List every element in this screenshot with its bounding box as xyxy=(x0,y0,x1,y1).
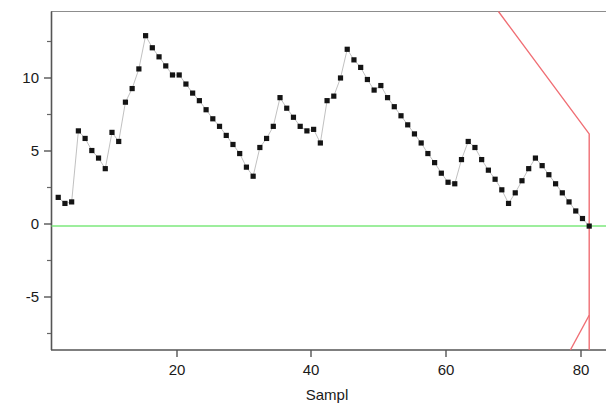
data-point-marker xyxy=(392,104,397,109)
data-point-marker xyxy=(304,128,309,133)
x-tick-label-40: 40 xyxy=(303,361,320,378)
data-point-marker xyxy=(419,140,424,145)
data-point-marker xyxy=(170,72,175,77)
data-point-marker xyxy=(398,113,403,118)
data-point-marker xyxy=(432,160,437,165)
data-point-marker xyxy=(385,95,390,100)
data-point-marker xyxy=(499,187,504,192)
data-point-marker xyxy=(412,131,417,136)
data-point-marker xyxy=(546,172,551,177)
data-point-marker xyxy=(298,124,303,129)
y-tick-label-10: 10 xyxy=(22,69,39,86)
data-point-marker xyxy=(257,145,262,150)
data-point-marker xyxy=(587,223,592,228)
data-point-marker xyxy=(271,124,276,129)
data-point-marker xyxy=(277,95,282,100)
data-series-layer xyxy=(56,33,592,229)
control-chart: 10 5 0 -5 20 40 60 80 Sampl xyxy=(0,0,606,404)
data-point-marker xyxy=(83,136,88,141)
data-point-marker xyxy=(96,155,101,160)
x-tick-label-60: 60 xyxy=(438,361,455,378)
data-point-marker xyxy=(345,47,350,52)
data-point-marker xyxy=(224,133,229,138)
data-point-marker xyxy=(109,130,114,135)
data-point-marker xyxy=(163,63,168,68)
data-point-marker xyxy=(378,83,383,88)
y-tick-label-minus5: -5 xyxy=(26,288,39,305)
data-point-marker xyxy=(284,106,289,111)
series-connector-line xyxy=(58,36,589,226)
data-point-marker xyxy=(372,87,377,92)
data-point-marker xyxy=(519,178,524,183)
data-point-marker xyxy=(230,142,235,147)
data-point-marker xyxy=(150,45,155,50)
series-observation xyxy=(56,33,592,229)
x-tick-label-80: 80 xyxy=(573,361,590,378)
data-point-marker xyxy=(533,155,538,160)
data-point-marker xyxy=(237,151,242,156)
data-point-marker xyxy=(553,181,558,186)
data-point-marker xyxy=(560,190,565,195)
data-point-marker xyxy=(526,166,531,171)
data-point-marker xyxy=(291,115,296,120)
data-point-marker xyxy=(143,33,148,38)
data-point-marker xyxy=(183,81,188,86)
data-point-marker xyxy=(351,57,356,62)
lower-control-limit xyxy=(570,315,589,350)
data-point-marker xyxy=(452,181,457,186)
x-axis-ticks xyxy=(177,350,581,357)
data-point-marker xyxy=(103,166,108,171)
data-point-marker xyxy=(479,157,484,162)
data-point-marker xyxy=(472,145,477,150)
data-point-marker xyxy=(136,66,141,71)
data-point-marker xyxy=(486,168,491,173)
y-axis-ticks xyxy=(44,42,51,334)
data-point-marker xyxy=(405,122,410,127)
data-point-marker xyxy=(210,116,215,121)
data-point-marker xyxy=(445,180,450,185)
x-axis-tick-labels: 20 40 60 80 xyxy=(169,361,590,378)
data-point-marker xyxy=(264,136,269,141)
data-point-marker xyxy=(540,163,545,168)
data-point-marker xyxy=(177,72,182,77)
data-point-marker xyxy=(56,195,61,200)
data-point-marker xyxy=(311,127,316,132)
data-point-marker xyxy=(217,124,222,129)
data-point-marker xyxy=(459,157,464,162)
data-point-marker xyxy=(573,208,578,213)
data-point-marker xyxy=(513,190,518,195)
data-point-marker xyxy=(130,86,135,91)
data-point-marker xyxy=(493,177,498,182)
data-point-marker xyxy=(318,140,323,145)
data-point-marker xyxy=(358,65,363,70)
data-point-marker xyxy=(69,199,74,204)
data-point-marker xyxy=(580,216,585,221)
data-point-marker xyxy=(89,148,94,153)
y-tick-label-5: 5 xyxy=(31,142,39,159)
data-point-marker xyxy=(62,201,67,206)
data-point-marker xyxy=(203,107,208,112)
data-point-marker xyxy=(506,201,511,206)
data-point-marker xyxy=(76,128,81,133)
chart-canvas: 10 5 0 -5 20 40 60 80 Sampl xyxy=(0,0,606,404)
data-point-marker xyxy=(251,174,256,179)
data-point-marker xyxy=(324,98,329,103)
data-point-marker xyxy=(566,199,571,204)
data-point-marker xyxy=(439,171,444,176)
data-point-marker xyxy=(331,94,336,99)
data-point-marker xyxy=(116,139,121,144)
data-point-marker xyxy=(190,91,195,96)
data-point-marker xyxy=(425,151,430,156)
x-tick-label-20: 20 xyxy=(169,361,186,378)
x-axis-title: Sampl xyxy=(306,386,349,403)
data-point-marker xyxy=(365,77,370,82)
data-point-marker xyxy=(466,139,471,144)
y-axis-tick-labels: 10 5 0 -5 xyxy=(22,69,39,305)
upper-control-limit xyxy=(498,12,589,351)
data-point-marker xyxy=(338,75,343,80)
data-point-marker xyxy=(156,54,161,59)
data-point-marker xyxy=(244,165,249,170)
data-point-marker xyxy=(123,100,128,105)
data-point-marker xyxy=(197,98,202,103)
y-tick-label-0: 0 xyxy=(31,215,39,232)
